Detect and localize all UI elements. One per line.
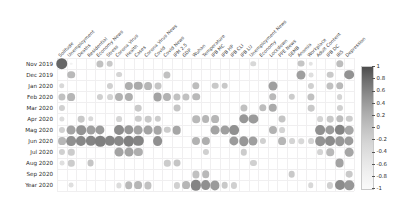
tick-dash-icon xyxy=(372,78,375,79)
bubble-marker xyxy=(115,148,124,157)
bubble-marker xyxy=(69,183,74,188)
bubble-marker xyxy=(316,136,326,146)
bubble-marker xyxy=(308,105,315,112)
grid-line-horizontal xyxy=(57,80,354,81)
colorbar-tick-label: 0.6 xyxy=(377,87,386,93)
colorbar-tick-label: 0.8 xyxy=(377,75,386,81)
bubble-marker xyxy=(229,125,239,135)
bubble-marker xyxy=(308,72,313,77)
bubble-marker xyxy=(288,171,295,178)
tick-dash-icon xyxy=(372,164,375,165)
colorbar-tick-label: -0.6 xyxy=(377,161,388,167)
bubble-marker xyxy=(154,82,161,89)
bubble-marker xyxy=(299,138,305,144)
bubble-marker xyxy=(59,83,65,89)
bubble-marker xyxy=(182,182,190,190)
colorbar-tick: -0.4 xyxy=(372,148,387,154)
bubble-marker xyxy=(124,148,133,157)
bubble-marker xyxy=(316,125,326,135)
bubble-marker xyxy=(269,126,277,134)
bubble-marker xyxy=(326,148,334,156)
bubble-marker xyxy=(212,82,219,89)
colorbar-tick: 0 xyxy=(372,124,380,130)
colorbar-tick: -0.6 xyxy=(372,161,387,167)
colorbar-tick-label: -0.8 xyxy=(377,173,388,179)
colorbar-tick: -1 xyxy=(372,185,382,191)
bubble-marker xyxy=(345,126,354,135)
bubble-marker xyxy=(67,126,76,135)
y-axis-label: Jun 2020 xyxy=(28,138,53,144)
bubble-marker xyxy=(76,125,86,135)
colorbar-tick: 0.4 xyxy=(372,100,385,106)
plot-area xyxy=(57,58,354,191)
bubble-marker xyxy=(88,116,94,122)
bubble-marker xyxy=(269,93,277,101)
bubble-marker xyxy=(192,115,200,123)
correlation-bubble-chart: SolitudeUnemploymentDeathsResidentialEco… xyxy=(0,0,410,201)
tick-dash-icon xyxy=(372,188,375,189)
grid-line-horizontal xyxy=(57,102,354,103)
bubble-marker xyxy=(279,116,286,123)
bubble-marker xyxy=(78,116,85,123)
bubble-marker xyxy=(173,104,180,111)
bubble-marker xyxy=(125,182,133,190)
tick-dash-icon xyxy=(372,152,375,153)
y-axis-label: Feb 2020 xyxy=(27,94,53,100)
colorbar-tick: 0.8 xyxy=(372,75,385,81)
y-axis-label: Jan 2020 xyxy=(28,83,53,89)
colorbar-tick-label: -0.4 xyxy=(377,148,388,154)
bubble-marker xyxy=(145,116,152,123)
y-axis-label: Nov 2019 xyxy=(26,61,53,67)
bubble-marker xyxy=(116,72,122,78)
bubble-marker xyxy=(327,71,334,78)
grid-line-horizontal xyxy=(57,158,354,159)
bubble-marker xyxy=(221,82,228,89)
y-axis-label: Jul 2020 xyxy=(30,149,53,155)
bubble-marker xyxy=(115,93,123,101)
bubble-marker xyxy=(192,93,200,101)
bubble-marker xyxy=(308,183,314,189)
colorbar-tick: 1 xyxy=(372,63,380,69)
y-axis-label: Apr 2020 xyxy=(27,116,53,122)
colorbar-tick: 0.2 xyxy=(372,112,385,118)
colorbar-tick-label: 0 xyxy=(377,124,380,130)
bubble-marker xyxy=(335,159,344,168)
bubble-marker xyxy=(335,180,345,190)
bubble-marker xyxy=(173,160,180,167)
bubble-marker xyxy=(153,126,162,135)
bubble-marker xyxy=(144,82,152,90)
bubble-marker xyxy=(163,93,171,101)
grid-line-vertical xyxy=(354,58,355,191)
bubble-marker xyxy=(297,70,306,79)
bubble-marker xyxy=(134,126,143,135)
tick-dash-icon xyxy=(372,91,375,92)
bubble-marker xyxy=(153,92,162,101)
bubble-marker xyxy=(327,116,334,123)
bubble-marker xyxy=(144,126,153,135)
colorbar-tick: -0.2 xyxy=(372,136,387,142)
tick-dash-icon xyxy=(372,103,375,104)
bubble-marker xyxy=(336,82,344,90)
tick-dash-icon xyxy=(372,127,375,128)
colorbar-tick-labels: 10.80.60.40.20-0.2-0.4-0.6-0.8-1 xyxy=(372,66,406,188)
bubble-marker xyxy=(135,182,143,190)
bubble-marker xyxy=(308,138,314,144)
bubble-marker xyxy=(289,138,295,144)
bubble-marker xyxy=(86,126,95,135)
bubble-marker xyxy=(278,137,286,145)
bubble-marker xyxy=(87,160,94,167)
bubble-marker xyxy=(279,127,285,133)
x-axis-label: Depression xyxy=(345,36,367,58)
bubble-marker xyxy=(59,161,64,166)
tick-dash-icon xyxy=(372,115,375,116)
bubble-marker xyxy=(309,61,314,66)
bubble-marker xyxy=(251,61,257,67)
bubble-marker xyxy=(202,171,210,179)
bubble-marker xyxy=(268,81,277,90)
tick-dash-icon xyxy=(372,176,375,177)
bubble-marker xyxy=(107,94,113,100)
bubble-marker xyxy=(344,70,354,80)
bubble-marker xyxy=(318,149,324,155)
y-axis-label: Sep 2020 xyxy=(26,171,53,177)
bubble-marker xyxy=(318,116,324,122)
